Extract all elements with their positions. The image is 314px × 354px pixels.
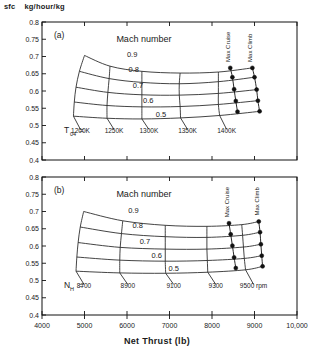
operating-line-label: Max Climb (254, 187, 260, 216)
x-tick-label: 7000 (162, 322, 178, 329)
parameter-value-label: 8900 (121, 282, 136, 289)
mach-value-label: 0.8 (132, 221, 142, 230)
data-point-marker (260, 254, 264, 258)
panel-label-b: (b) (54, 185, 65, 195)
x-axis-label: Net Thrust (lb) (0, 336, 314, 346)
x-tick-label: 9000 (247, 322, 263, 329)
data-point-marker (230, 244, 234, 248)
data-point-marker (227, 221, 231, 225)
mach-curve (80, 227, 260, 237)
y-tick-label-b: 0.65 (25, 225, 39, 232)
x-tick-label: 10,000 (286, 322, 308, 329)
parameter-value-label: 9300 (209, 282, 224, 289)
data-point-marker (234, 266, 238, 270)
parameter-subscript: H (70, 286, 74, 292)
parameter-curve (120, 221, 123, 273)
y-tick-label-b: 0.55 (25, 260, 39, 267)
x-tick-label: 6000 (119, 322, 135, 329)
x-tick-label: 5000 (77, 322, 93, 329)
operating-line-label: Max Cruise (224, 186, 230, 217)
figure-root: sfckg/hour/kg 0.40.450.50.550.60.650.70.… (0, 0, 314, 354)
x-tick-label: 4000 (34, 322, 50, 329)
mach-value-label: 0.7 (140, 237, 150, 246)
data-point-marker (258, 230, 262, 234)
mach-value-label: 0.5 (169, 264, 179, 273)
y-tick-label-b: 0.8 (29, 174, 39, 181)
mach-number-title: Mach number (116, 189, 171, 199)
y-tick-label-b: 0.7 (29, 208, 39, 215)
plot-b: 0.40.450.50.550.60.650.70.750.8400050006… (0, 0, 314, 354)
data-point-marker (259, 242, 263, 246)
y-tick-label-b: 0.75 (25, 191, 39, 198)
y-tick-label-b: 0.6 (29, 243, 39, 250)
data-point-marker (261, 264, 265, 268)
data-point-marker (232, 255, 236, 259)
parameter-equals: = (79, 280, 84, 290)
data-point-marker (229, 232, 233, 236)
y-tick-label-b: 0.4 (29, 312, 39, 319)
parameter-curve (76, 212, 84, 272)
x-tick-label: 8000 (204, 322, 220, 329)
parameter-value-label: 9500 rpm (240, 282, 267, 290)
mach-value-label: 0.9 (128, 206, 138, 215)
y-tick-label-b: 0.45 (25, 294, 39, 301)
y-tick-label-b: 0.5 (29, 277, 39, 284)
data-point-marker (257, 220, 261, 224)
mach-curve (84, 212, 259, 227)
mach-value-label: 0.6 (152, 251, 162, 260)
parameter-value-label: 9100 (166, 282, 181, 289)
